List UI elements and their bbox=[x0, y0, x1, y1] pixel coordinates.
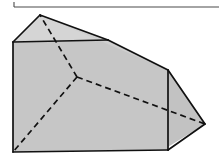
solid-faces bbox=[13, 15, 205, 152]
face-front bbox=[13, 40, 168, 152]
frame-top-rule bbox=[14, 2, 219, 7]
polyhedron-svg bbox=[0, 0, 220, 160]
figure-canvas bbox=[0, 0, 220, 160]
